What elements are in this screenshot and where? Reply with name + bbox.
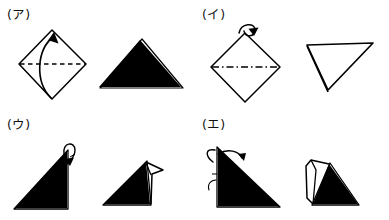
panel-d: (エ) [195,110,389,220]
panel-a: (ア) [0,0,195,110]
panel-b-loop-arrow [239,25,259,36]
panel-a-after-triangle [99,39,183,88]
panel-d-figures [195,130,389,220]
panel-b: (イ) [195,0,389,110]
diagram-sheet: (ア) (イ) [0,0,389,220]
panel-b-before-diamond [211,33,280,102]
panel-c-figures [0,130,195,220]
panel-d-before-triangle [217,147,280,207]
panel-c-before-triangle [14,150,68,209]
panel-c: (ウ) [0,110,195,220]
panel-b-figures [195,20,389,110]
panel-a-figures [0,20,195,110]
panel-c-after-triangle [103,161,163,205]
panel-d-after-triangle [306,160,359,205]
panel-b-after-triangle [307,43,373,92]
